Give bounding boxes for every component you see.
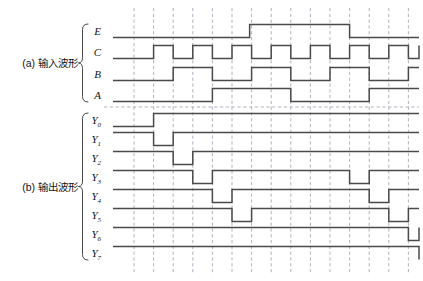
signal-label-c: C	[94, 46, 102, 58]
timing-diagram-svg: ECBAY0Y1Y2Y3Y4Y5Y6Y7 (a) 输入波形(b) 输出波形	[0, 0, 423, 281]
signal-label-a: A	[93, 89, 101, 101]
signal-label-b: B	[94, 68, 101, 80]
figure-background	[0, 0, 423, 281]
group-label-input: (a) 输入波形	[22, 57, 79, 69]
group-label-output: (b) 输出波形	[22, 181, 79, 193]
timing-diagram-figure: ECBAY0Y1Y2Y3Y4Y5Y6Y7 (a) 输入波形(b) 输出波形	[0, 0, 423, 281]
signal-label-e: E	[93, 25, 101, 37]
